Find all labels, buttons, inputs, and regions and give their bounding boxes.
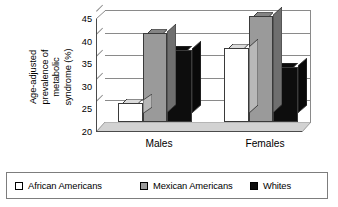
- legend-swatch-icon: [250, 182, 258, 190]
- x-axis-tick-label: Females: [245, 138, 284, 149]
- y-axis-title: Age-adjusted prevalence of metabolic syn…: [22, 16, 78, 138]
- y-axis-title-line-1: Age-adjusted: [27, 50, 39, 104]
- legend-label: African Americans: [28, 180, 102, 191]
- bar-side-face: [192, 41, 201, 113]
- bar-top-face: [224, 39, 249, 48]
- bar: [224, 48, 249, 122]
- bar: [118, 103, 143, 122]
- bar-top-face: [118, 94, 143, 103]
- y-axis-tick-labels: 202530354045: [74, 10, 92, 132]
- bar-side-face: [273, 7, 282, 113]
- y-axis-tick-label: 45: [82, 15, 92, 24]
- legend-entry: Mexican Americans: [140, 180, 233, 191]
- legend-swatch-icon: [140, 182, 148, 190]
- bar-top-face: [143, 24, 168, 33]
- x-axis-line: [96, 131, 302, 132]
- y-axis-tick-label: 20: [82, 128, 92, 137]
- y-axis-title-line-4: syndrome (%): [62, 48, 74, 105]
- figure: Age-adjusted prevalence of metabolic syn…: [0, 0, 338, 207]
- y-axis-tick-label: 25: [82, 105, 92, 114]
- x-axis-tick-labels: MalesFemales: [96, 138, 311, 154]
- legend-label: Whites: [263, 180, 291, 191]
- x-axis-tick-label: Males: [145, 138, 172, 149]
- bar-chart: Age-adjusted prevalence of metabolic syn…: [0, 0, 338, 162]
- y-axis-tick-label: 40: [82, 37, 92, 46]
- legend-label: Mexican Americans: [153, 180, 233, 191]
- bar-side-face: [249, 39, 258, 113]
- y-axis-title-line-3: metabolic: [50, 57, 62, 96]
- bar-front-face: [118, 103, 143, 122]
- bar-top-face: [249, 7, 274, 16]
- y-axis-title-line-2: prevalence of: [39, 50, 51, 105]
- bar-side-face: [298, 58, 307, 113]
- legend: African AmericansMexican AmericansWhites: [6, 172, 328, 199]
- plot-area: [96, 10, 311, 132]
- legend-swatch-icon: [15, 182, 23, 190]
- legend-entry: African Americans: [15, 180, 102, 191]
- bar-side-face: [143, 94, 152, 113]
- y-axis-tick-label: 30: [82, 82, 92, 91]
- bar-front-face: [224, 48, 249, 122]
- y-axis-tick-label: 35: [82, 60, 92, 69]
- bar-series-group: [96, 10, 311, 132]
- bar-side-face: [167, 24, 176, 113]
- y-axis-line: [96, 19, 97, 132]
- legend-entry: Whites: [250, 180, 291, 191]
